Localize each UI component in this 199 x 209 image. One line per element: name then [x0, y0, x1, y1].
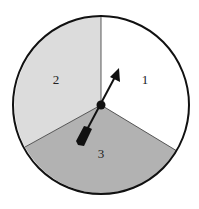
- spinner-hub: [97, 101, 106, 110]
- section-label-1: 1: [142, 72, 149, 87]
- section-label-2: 2: [53, 72, 60, 87]
- section-label-3: 3: [98, 146, 105, 161]
- spinner-diagram: 1 2 3: [0, 0, 199, 209]
